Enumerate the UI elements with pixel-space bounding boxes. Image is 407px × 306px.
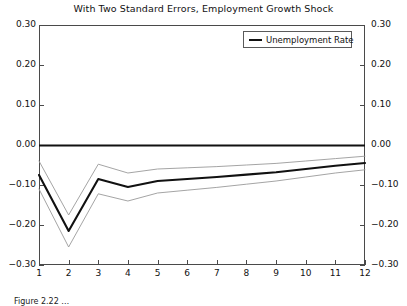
chart-container: With Two Standard Errors, Employment Gro… <box>0 0 407 306</box>
figure-caption: Figure 2.22 … <box>14 297 394 306</box>
series-line-upper-band <box>39 156 365 215</box>
chart-legend: Unemployment Rate <box>243 31 352 48</box>
series-line-estimate <box>39 163 365 231</box>
legend-line-swatch <box>249 39 262 41</box>
legend-label: Unemployment Rate <box>266 35 354 45</box>
